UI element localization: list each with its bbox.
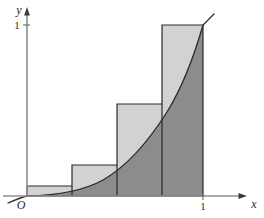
y-tick-label-1: 1 — [14, 19, 20, 31]
y-axis-arrow-icon — [24, 7, 30, 16]
figure-canvas: y x O 1 1 — [0, 0, 264, 218]
riemann-sum-figure: y x O 1 1 — [0, 0, 264, 218]
x-tick-label-1: 1 — [200, 200, 206, 212]
y-axis-label: y — [15, 3, 22, 17]
x-axis-arrow-icon — [239, 193, 248, 199]
origin-label: O — [17, 198, 26, 212]
x-axis-label: x — [250, 197, 257, 211]
